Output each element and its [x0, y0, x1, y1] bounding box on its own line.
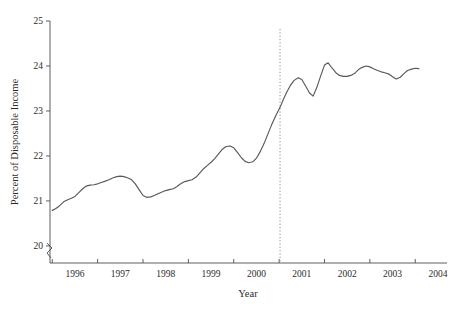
chart-figure: 202122232425 199619971998199920002001200…	[0, 0, 454, 310]
y-tick-label: 21	[34, 196, 44, 206]
x-axis-title: Year	[238, 288, 258, 299]
axes	[47, 21, 447, 263]
x-tick-label: 1997	[111, 269, 130, 279]
x-tick-label: 1996	[65, 269, 84, 279]
x-tick-label: 2000	[247, 269, 266, 279]
data-series-line	[52, 63, 419, 211]
x-tick-label: 2001	[292, 269, 311, 279]
y-tick-label: 24	[34, 61, 44, 71]
y-tick-label: 22	[34, 151, 44, 161]
y-axis-title: Percent of Disposable Income	[9, 79, 20, 206]
x-tick-label: 1998	[156, 269, 175, 279]
x-axis-ticks: 199619971998199920002001200220032004	[52, 259, 447, 279]
x-tick-label: 2003	[383, 269, 402, 279]
y-tick-label: 20	[34, 241, 44, 251]
x-tick-label: 1999	[202, 269, 221, 279]
x-tick-label: 2004	[428, 269, 447, 279]
y-axis-break-icon	[47, 243, 52, 258]
y-axis-ticks: 202122232425	[34, 16, 51, 251]
y-tick-label: 25	[34, 16, 44, 26]
x-tick-label: 2002	[338, 269, 357, 279]
line-chart: 202122232425 199619971998199920002001200…	[0, 0, 454, 310]
y-tick-label: 23	[34, 106, 44, 116]
